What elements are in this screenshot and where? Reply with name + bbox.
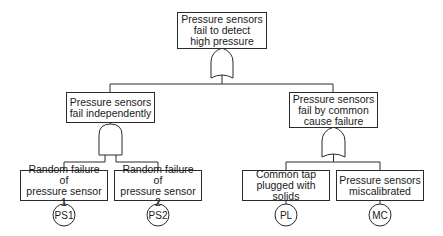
code-pl: PL [275,204,297,226]
code-ps2: PS2 [147,204,169,226]
intermediate-event-independent: Pressure sensors fail independently [66,92,155,123]
basic-event-mc: Pressure sensors miscalibrated [336,170,424,201]
basic-event-ps2: Random failure of pressure sensor 2 [114,170,202,201]
intermediate-event-common-cause: Pressure sensors fail by common cause fa… [289,92,378,128]
top-or-gate-icon [211,48,233,78]
right-or-gate-icon [322,127,345,157]
code-mc: MC [369,204,391,226]
basic-event-ps1: Random failure of pressure sensor 1 [20,170,108,201]
top-event-box: Pressure sensors fail to detect high pre… [177,12,267,49]
basic-event-pl: Common tap plugged with solids [242,170,330,201]
code-ps1: PS1 [53,204,75,226]
left-and-gate-icon [99,124,122,155]
